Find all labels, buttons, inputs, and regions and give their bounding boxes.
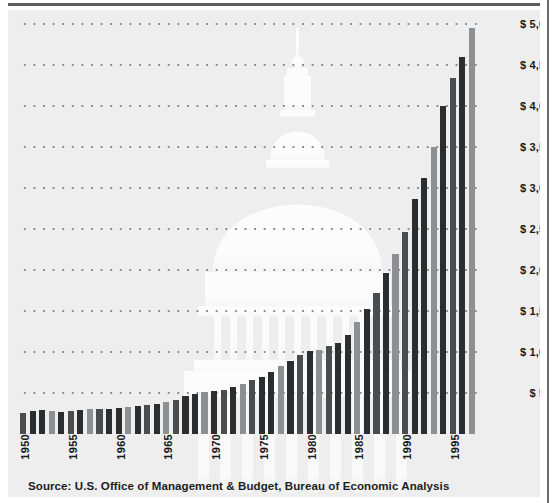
y-axis-tick-label: $ 0 [498, 428, 540, 440]
y-axis-tick-label: $ 4,500 [498, 59, 540, 71]
bar [30, 411, 36, 434]
bar [221, 390, 227, 434]
bar [135, 406, 141, 434]
x-axis-tick-label: 1975 [258, 434, 270, 460]
top-border-rule [8, 3, 540, 6]
bar [287, 361, 293, 434]
bar [402, 232, 408, 434]
y-axis-tick-label: $ 3,500 [498, 141, 540, 153]
gridline [20, 105, 482, 107]
bar [459, 57, 465, 434]
gridline [20, 146, 482, 148]
bar [373, 293, 379, 434]
bar [68, 411, 74, 434]
bar [125, 407, 131, 434]
x-axis-tick-label: 1980 [306, 434, 318, 460]
bar [316, 350, 322, 434]
x-axis-tick-label: 1955 [67, 434, 79, 460]
y-axis-tick-label: $ 1,000 [498, 346, 540, 358]
bar [58, 412, 64, 434]
bar [230, 387, 236, 434]
chart-page: $ 5,000$ 4,500$ 4,000$ 3,500$ 3,000$ 2,5… [0, 0, 558, 503]
bar [192, 394, 198, 434]
bar [87, 409, 93, 434]
plot-area: $ 5,000$ 4,500$ 4,000$ 3,500$ 3,000$ 2,5… [20, 24, 490, 434]
y-axis-tick-label: $ 3,000 [498, 182, 540, 194]
bar [116, 408, 122, 434]
bar [354, 322, 360, 434]
bar [469, 28, 475, 434]
gridline [20, 64, 482, 66]
bar [335, 343, 341, 434]
bar [144, 405, 150, 434]
bar [392, 254, 398, 434]
bar [297, 355, 303, 434]
bar [49, 411, 55, 434]
x-axis-tick-label: 1960 [115, 434, 127, 460]
y-axis-tick-label: $ 5,000 [498, 18, 540, 30]
chart-panel: $ 5,000$ 4,500$ 4,000$ 3,500$ 3,000$ 2,5… [8, 10, 540, 497]
y-axis-tick-label: $ 2,000 [498, 264, 540, 276]
bar [249, 380, 255, 434]
bar [440, 106, 446, 434]
y-axis-tick-label: $ 4,000 [498, 100, 540, 112]
bar [383, 273, 389, 434]
x-axis-tick-label: 1995 [449, 434, 461, 460]
bar [173, 400, 179, 434]
y-axis-tick-label: $ 500 [498, 387, 540, 399]
gridline [20, 23, 482, 25]
bar [154, 404, 160, 434]
bar [77, 410, 83, 434]
right-border-rule [547, 0, 549, 503]
y-axis-tick-label: $ 2,500 [498, 223, 540, 235]
bar [39, 410, 45, 434]
gridline [20, 187, 482, 189]
bar [163, 402, 169, 434]
bar [412, 199, 418, 434]
bar [421, 178, 427, 434]
y-axis-tick-label: $ 1,500 [498, 305, 540, 317]
bar [345, 335, 351, 434]
bar [307, 351, 313, 434]
x-axis-labels: 1950195519601965197019751980198519901995 [20, 434, 490, 476]
bar [278, 366, 284, 434]
bar [240, 384, 246, 434]
x-axis-tick-label: 1950 [19, 434, 31, 460]
source-note: Source: U.S. Office of Management & Budg… [28, 480, 449, 492]
x-axis-tick-label: 1970 [210, 434, 222, 460]
bar [211, 391, 217, 434]
x-axis-tick-label: 1965 [162, 434, 174, 460]
x-axis-tick-label: 1990 [401, 434, 413, 460]
bar [201, 392, 207, 434]
bar [106, 409, 112, 434]
bar [326, 346, 332, 434]
bar [431, 147, 437, 434]
bar [259, 377, 265, 434]
x-axis-tick-label: 1985 [353, 434, 365, 460]
bar [268, 372, 274, 434]
bar [450, 78, 456, 434]
bar [96, 409, 102, 434]
bar [182, 396, 188, 434]
bar [20, 413, 26, 434]
bar [364, 309, 370, 434]
